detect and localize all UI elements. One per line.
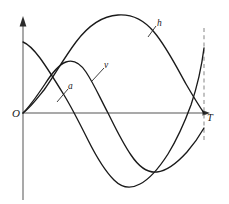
plot-svg — [0, 0, 229, 204]
curve-label-h: h — [157, 19, 162, 29]
figure-canvas: h v a O T — [0, 0, 229, 204]
leader-line-v — [92, 68, 104, 81]
origin-label: O — [12, 108, 20, 119]
curve-a — [23, 42, 204, 187]
curve-v — [23, 61, 204, 172]
y-axis-arrow-icon — [20, 16, 27, 27]
curve-h — [23, 15, 204, 113]
curve-label-a: a — [68, 82, 73, 92]
period-label: T — [207, 113, 213, 124]
curve-label-v: v — [104, 61, 108, 71]
